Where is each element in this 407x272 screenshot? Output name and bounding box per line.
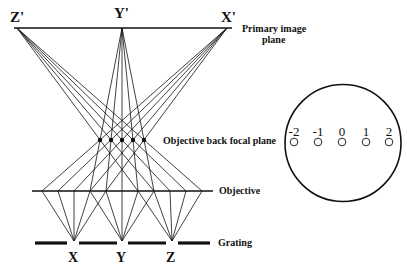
image-point-z-label: Z' — [10, 9, 24, 25]
order-label-minus-1: -1 — [313, 124, 324, 139]
object-point-x-label: X — [68, 250, 78, 265]
order-spot-0 — [338, 138, 346, 146]
diffraction-diagram: Z' Y' X' Primary image plane Objective b… — [0, 0, 407, 272]
order-label-1: 1 — [363, 124, 370, 139]
order-label-0: 0 — [339, 124, 346, 139]
order-spot-1 — [362, 138, 370, 146]
image-point-y-label: Y' — [114, 5, 129, 21]
order-spot-minus-1 — [314, 138, 322, 146]
focal-point-markers — [98, 138, 146, 142]
object-point-z-label: Z — [166, 250, 175, 265]
order-label-minus-2: -2 — [289, 124, 300, 139]
objective-label: Objective — [219, 185, 261, 196]
back-focal-plane-label: Objective back focal plane — [163, 135, 277, 146]
object-point-y-label: Y — [116, 250, 126, 265]
primary-image-plane-label-2: plane — [262, 34, 286, 45]
order-spot-minus-2 — [290, 138, 298, 146]
image-point-x-label: X' — [221, 9, 236, 25]
primary-image-plane-label: Primary image — [242, 23, 307, 34]
diffraction-orders: -2 -1 0 1 2 — [289, 124, 393, 146]
order-label-2: 2 — [386, 124, 393, 139]
order-spot-2 — [385, 138, 393, 146]
grating-label: Grating — [218, 237, 252, 248]
back-focal-plane-view-circle — [285, 85, 401, 202]
